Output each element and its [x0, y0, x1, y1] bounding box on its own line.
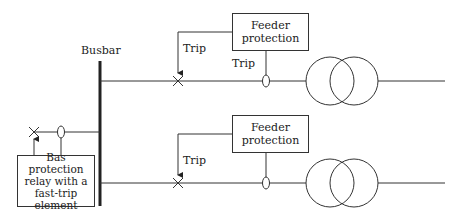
trip-label-breaker-1: Trip: [183, 42, 206, 55]
bus-protection-relay-box: Bas protection relay with a fast-trip el…: [17, 155, 95, 207]
protection-scheme-diagram: Busbar Feeder protection Trip Trip Feede…: [0, 0, 457, 223]
feeder-protection-label-line: protection: [242, 134, 300, 147]
trip-label-ct-1: Trip: [232, 57, 255, 70]
bus-protection-label-line: relay with a: [18, 175, 94, 187]
trip-label-breaker-2: Trip: [183, 154, 206, 167]
bus-protection-label-line: fast-trip: [18, 187, 94, 199]
transformer-icon: [306, 159, 378, 207]
bus-protection-label-line: element: [18, 199, 94, 211]
current-transformer-icon: [58, 126, 65, 138]
feeder-protection-box-1: Feeder protection: [232, 13, 309, 51]
bus-protection-label-line: Bas protection: [18, 151, 94, 175]
feeder-protection-label-line: Feeder: [242, 121, 300, 134]
transformer-icon: [306, 57, 378, 105]
current-transformer-icon: [263, 75, 270, 87]
busbar-label: Busbar: [81, 44, 121, 57]
feeder-protection-label-line: protection: [242, 32, 300, 45]
feeder-protection-label-line: Feeder: [242, 19, 300, 32]
feeder-protection-box-2: Feeder protection: [232, 115, 309, 153]
current-transformer-icon: [263, 177, 270, 189]
